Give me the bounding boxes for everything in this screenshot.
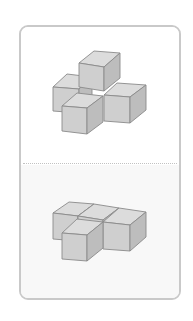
cube-front-face xyxy=(79,63,104,91)
stacked-top-cube xyxy=(79,51,120,91)
cube-front-face xyxy=(62,106,87,134)
right-cube xyxy=(104,83,146,123)
cube-figure-bottom xyxy=(53,202,146,261)
cube-figures-canvas xyxy=(0,0,193,321)
cube-front-face xyxy=(104,95,130,123)
cube-front-face xyxy=(103,222,130,251)
cube-front-face xyxy=(62,233,87,261)
cube-figure-top xyxy=(53,51,146,134)
